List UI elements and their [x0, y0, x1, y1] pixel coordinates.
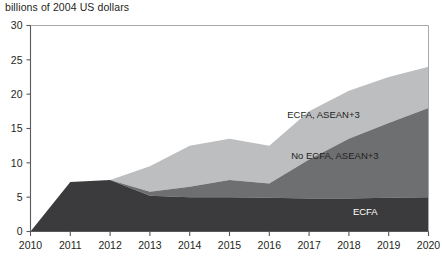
x-tick-label: 2016 [258, 239, 282, 251]
x-tick-label: 2012 [98, 239, 122, 251]
series-label-ecfa-asean-3: ECFA, ASEAN+3 [287, 109, 360, 120]
x-tick-label: 2011 [59, 239, 82, 251]
x-tick-labels: 2010201120122013201420152016201720182019… [19, 239, 441, 251]
y-tick-labels: 051015202530 [11, 19, 23, 237]
series-label-no-ecfa-asean-3: No ECFA, ASEAN+3 [291, 150, 378, 161]
y-tick-label: 25 [11, 54, 23, 66]
x-tick-label: 2020 [417, 239, 441, 251]
stacked-area-chart: 051015202530 201020112012201320142015201… [0, 0, 442, 268]
x-tick-label: 2017 [297, 239, 321, 251]
y-tick-label: 15 [11, 122, 23, 134]
x-tick-label: 2018 [337, 239, 361, 251]
series-label-ecfa: ECFA [353, 206, 378, 217]
x-tick-label: 2015 [218, 239, 242, 251]
y-tick-label: 10 [11, 157, 23, 169]
y-tick-label: 30 [11, 19, 23, 31]
x-tick-label: 2019 [377, 239, 401, 251]
y-tick-label: 20 [11, 88, 23, 100]
y-tick-label: 0 [17, 225, 23, 237]
y-tick-label: 5 [17, 191, 23, 203]
x-tick-label: 2013 [138, 239, 162, 251]
x-tick-label: 2014 [178, 239, 202, 251]
chart-container: billions of 2004 US dollars 051015202530… [0, 0, 442, 268]
x-tick-label: 2010 [19, 239, 43, 251]
